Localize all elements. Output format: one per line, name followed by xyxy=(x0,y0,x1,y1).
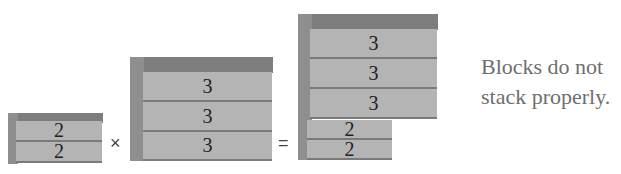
block-2: 2 xyxy=(16,142,102,163)
multiply-sign: × xyxy=(110,133,121,154)
caption: Blocks do not stack properly. xyxy=(481,52,610,112)
block-3: 3 xyxy=(310,89,437,119)
caption-line-1: Blocks do not xyxy=(481,52,610,82)
block-3: 3 xyxy=(143,132,272,161)
block-2: 2 xyxy=(16,121,102,142)
block-top-face xyxy=(298,14,438,30)
block-side-face xyxy=(130,57,144,161)
equals-sign: = xyxy=(278,133,289,154)
caption-line-2: stack properly. xyxy=(481,82,610,112)
block-3: 3 xyxy=(143,72,272,102)
block-3: 3 xyxy=(310,59,437,89)
block-top-face xyxy=(130,57,273,73)
block-2: 2 xyxy=(307,140,392,160)
block-3: 3 xyxy=(310,29,437,59)
block-3: 3 xyxy=(143,102,272,132)
